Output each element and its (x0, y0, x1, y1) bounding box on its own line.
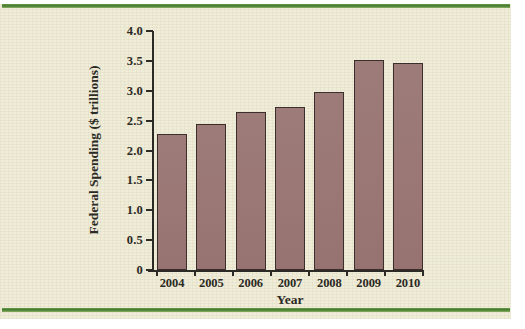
x-axis-tick-label: 2009 (354, 276, 384, 291)
y-axis-tick-label: 3.0 (127, 83, 143, 98)
x-axis-tick-label: 2008 (314, 276, 344, 291)
bar-2008 (314, 92, 344, 270)
y-axis-tick (146, 179, 153, 181)
y-axis-tick (146, 30, 153, 32)
bar-2009 (354, 60, 384, 270)
top-rule (2, 4, 510, 8)
bar-2006 (236, 112, 266, 270)
y-axis-tick-label: 4.0 (127, 24, 143, 39)
y-axis-tick-label: 0.5 (127, 233, 143, 248)
x-axis-tick-labels: 2004200520062007200820092010 (157, 276, 423, 291)
y-axis-tick-label: 1.5 (127, 173, 143, 188)
x-axis-title: Year (157, 292, 423, 308)
x-axis-tick-label: 2005 (196, 276, 226, 291)
bar-2010 (393, 63, 423, 270)
bar-2004 (157, 134, 187, 270)
bar-series (157, 31, 423, 270)
y-axis-tick-label: 0 (137, 263, 143, 278)
y-axis-tick (146, 120, 153, 122)
bar-2005 (196, 124, 226, 270)
bar-2007 (275, 107, 305, 270)
y-axis-tick (146, 90, 153, 92)
x-axis-tick-label: 2004 (157, 276, 187, 291)
y-axis-tick-label: 2.5 (127, 113, 143, 128)
figure-container: Federal Spending ($ trillions) 00.51.01.… (0, 0, 525, 329)
y-axis-tick-label: 3.5 (127, 53, 143, 68)
bottom-rule (2, 308, 510, 312)
y-axis-tick (146, 239, 153, 241)
y-axis-tick-label: 1.0 (127, 203, 143, 218)
y-axis-tick (146, 60, 153, 62)
y-axis-tick (146, 150, 153, 152)
y-axis-title: Federal Spending ($ trillions) (86, 65, 102, 234)
y-axis-tick (146, 209, 153, 211)
x-axis-tick-label: 2010 (393, 276, 423, 291)
x-axis-tick-label: 2007 (275, 276, 305, 291)
x-axis-tick-label: 2006 (236, 276, 266, 291)
y-axis-tick-label: 2.0 (127, 143, 143, 158)
plot-area: 00.51.01.52.02.53.03.54.0 (152, 31, 424, 270)
